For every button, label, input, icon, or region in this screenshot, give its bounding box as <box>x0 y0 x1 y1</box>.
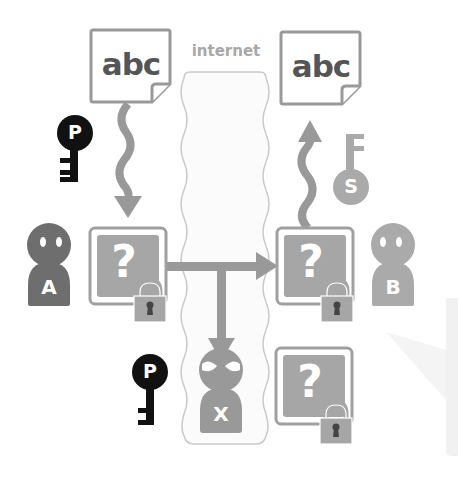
receiver-label: B <box>379 275 407 299</box>
encrypted-box-intercepted-glyph: ? <box>290 356 330 407</box>
encrypted-box-receiver-glyph: ? <box>291 236 331 287</box>
public-key-eavesdropper-label: P <box>136 360 164 382</box>
sender-label: A <box>35 275 63 299</box>
encrypt-arrow <box>114 104 142 218</box>
public-key-sender-label: P <box>61 121 89 143</box>
eavesdropper-label: X <box>207 402 235 426</box>
decrypt-arrow <box>298 120 322 228</box>
internet-label: internet <box>180 42 272 60</box>
encrypted-box-sender-glyph: ? <box>104 236 144 287</box>
secret-key-receiver-label: S <box>337 175 365 197</box>
sender-document-text: abc <box>91 46 171 82</box>
receiver-document-text: abc <box>281 48 361 84</box>
decorative-bubble <box>386 298 458 456</box>
